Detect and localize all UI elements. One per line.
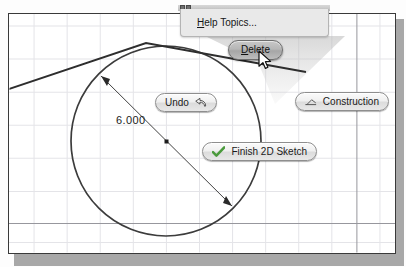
dimension-value-label[interactable]: 6.000	[116, 114, 146, 126]
canvas-grid	[9, 14, 395, 253]
undo-arrow-icon	[195, 97, 207, 108]
construction-line-icon	[305, 97, 317, 107]
construction-button[interactable]: Construction	[295, 92, 389, 111]
help-topics-label-rest: elp Topics...	[204, 17, 257, 28]
help-topics-panel[interactable]: Help Topics...	[180, 9, 329, 37]
help-topics-label[interactable]: Help Topics...	[197, 17, 257, 28]
finish-2d-sketch-label: Finish 2D Sketch	[231, 147, 307, 157]
sketch-canvas-frame[interactable]	[8, 13, 396, 254]
cursor-arrow-pointer	[258, 50, 274, 72]
delete-button[interactable]: Delete	[228, 40, 283, 60]
undo-button-label: Undo	[165, 98, 189, 108]
finish-2d-sketch-button[interactable]: Finish 2D Sketch	[202, 142, 317, 161]
construction-button-label: Construction	[323, 97, 379, 107]
undo-button[interactable]: Undo	[155, 93, 217, 112]
check-icon	[212, 146, 225, 158]
cad-sketch-screen: 6.000 Help Topics... Delete Undo Constru…	[0, 0, 406, 267]
